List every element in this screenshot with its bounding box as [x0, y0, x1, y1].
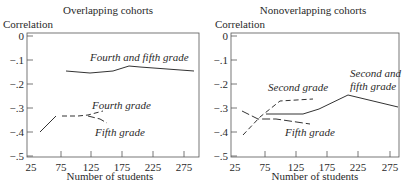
- svg-text:−.5: −.5: [10, 150, 25, 162]
- right-title: Nonoverlapping cohorts: [260, 4, 367, 16]
- svg-text:275: 275: [382, 161, 399, 173]
- right-annot-fifth: Fifth grade: [284, 126, 335, 138]
- svg-text:75: 75: [56, 161, 68, 173]
- right-annot-second: Second grade: [268, 81, 328, 93]
- right-panel: Nonoverlapping cohorts Correlation 0 −.1…: [214, 4, 402, 180]
- svg-text:275: 275: [176, 161, 193, 173]
- right-plot-frame: [231, 33, 399, 157]
- svg-text:25: 25: [230, 161, 242, 173]
- svg-text:−.4: −.4: [10, 126, 25, 138]
- left-ylabel: Correlation: [3, 18, 54, 30]
- right-ytick-labels: 0 −.1 −.2 −.3 −.4 −.5: [214, 30, 229, 162]
- svg-text:−.2: −.2: [214, 78, 228, 90]
- left-annot-fifth: Fifth grade: [94, 126, 145, 138]
- left-yticks: [27, 36, 33, 156]
- svg-text:−.1: −.1: [214, 54, 228, 66]
- left-annot-fourth: Fourth grade: [91, 99, 151, 111]
- right-line-second-fifth: [266, 95, 398, 114]
- svg-text:−.3: −.3: [10, 102, 25, 114]
- right-xlabel: Number of students: [272, 170, 359, 180]
- right-annot-second-fifth-1: Second and: [350, 67, 402, 79]
- left-ytick-labels: 0 −.1 −.2 −.3 −.4 −.5: [10, 30, 25, 162]
- left-panel: Overlapping cohorts Correlation 0 −.1 −.…: [3, 4, 199, 180]
- svg-text:−.5: −.5: [214, 150, 229, 162]
- svg-text:0: 0: [19, 30, 25, 42]
- figure: Overlapping cohorts Correlation 0 −.1 −.…: [0, 0, 406, 180]
- left-annot-fourth-fifth: Fourth and fifth grade: [89, 51, 189, 63]
- right-yticks: [231, 36, 237, 156]
- left-xlabel: Number of students: [67, 170, 154, 180]
- left-line-fourth: [62, 111, 103, 116]
- right-ylabel: Correlation: [215, 18, 266, 30]
- right-xticks: [265, 151, 390, 157]
- left-xticks: [61, 151, 184, 157]
- svg-text:−.2: −.2: [10, 78, 24, 90]
- svg-text:−.4: −.4: [214, 126, 229, 138]
- svg-text:25: 25: [26, 161, 38, 173]
- left-line-fifth: [88, 116, 107, 123]
- left-line-fifth-a: [40, 116, 56, 132]
- svg-text:−.3: −.3: [214, 102, 229, 114]
- svg-text:−.1: −.1: [10, 54, 24, 66]
- left-line-fourth-fifth: [66, 66, 194, 73]
- svg-text:75: 75: [260, 161, 272, 173]
- left-title: Overlapping cohorts: [63, 4, 153, 16]
- svg-text:0: 0: [223, 30, 229, 42]
- right-annot-second-fifth-2: fifth grade: [350, 80, 396, 92]
- right-line-fifth: [242, 111, 310, 124]
